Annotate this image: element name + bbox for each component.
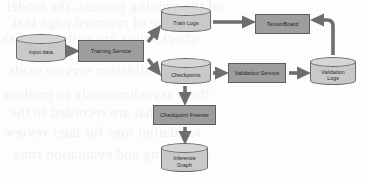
node-validation-service[interactable]: Validation Service — [228, 63, 286, 83]
node-label: Validation Logs — [310, 66, 356, 84]
node-label: TensorBoard — [267, 21, 299, 27]
node-layer: Input data Training Service Train Logs C… — [0, 0, 368, 179]
node-inference-graph[interactable]: Inference Graph — [161, 143, 208, 172]
node-label: Checkpoints — [161, 67, 211, 83]
node-tensorboard[interactable]: TensorBoard — [255, 14, 310, 34]
node-label: Train Logs — [161, 15, 211, 31]
node-train-logs[interactable]: Train Logs — [161, 6, 211, 32]
node-input-data[interactable]: Input data — [16, 34, 66, 62]
node-label: Training Service — [91, 48, 131, 54]
node-checkpoints[interactable]: Checkpoints — [161, 58, 211, 84]
node-label: Validation Service — [235, 70, 280, 76]
node-label: Inference Graph — [161, 152, 208, 171]
node-checkpoint-freezer[interactable]: Checkpoint Freezer — [153, 105, 216, 125]
node-validation-logs[interactable]: Validation Logs — [310, 57, 356, 85]
node-label: Checkpoint Freezer — [160, 112, 209, 118]
node-training-service[interactable]: Training Service — [78, 40, 144, 62]
diagram-page: of the training process, the model ghost… — [0, 0, 368, 179]
node-label: Input data — [16, 43, 66, 61]
